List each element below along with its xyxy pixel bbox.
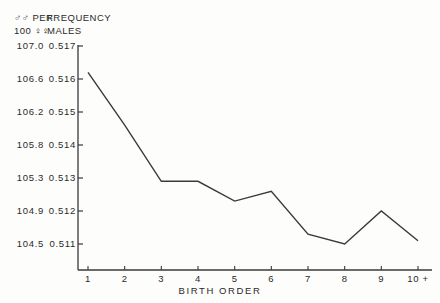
axes xyxy=(78,45,432,270)
y-axis-tick-marks xyxy=(78,46,83,244)
line-chart-plot xyxy=(0,0,440,303)
x-axis-title: BIRTH ORDER xyxy=(0,285,440,296)
chart-page: ♂♂ PER 100 ♀♀ FREQUENCY MALES 107.0106.6… xyxy=(0,0,440,303)
data-series-line xyxy=(88,72,418,244)
